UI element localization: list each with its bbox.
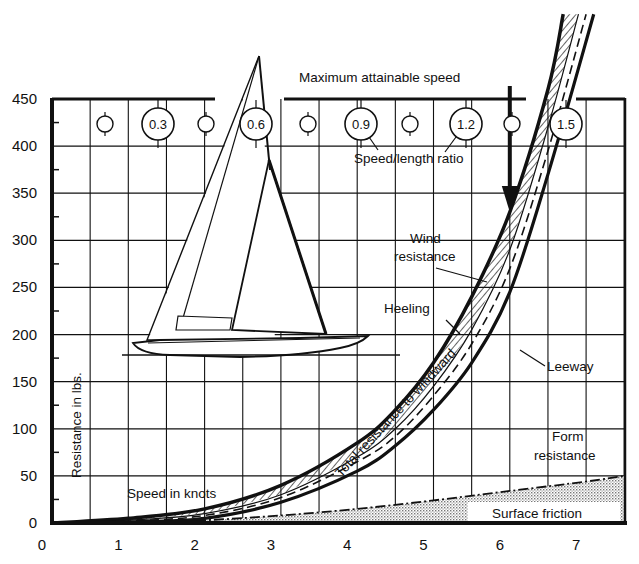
sailboat-illustration <box>122 56 400 357</box>
y-tick-label: 400 <box>12 137 37 154</box>
hull <box>133 336 368 357</box>
y-tick-label: 450 <box>12 90 37 107</box>
x-tick-label: 4 <box>343 536 351 553</box>
form-resistance-line <box>52 14 594 523</box>
y-tick-label: 300 <box>12 231 37 248</box>
x-tick-label: 2 <box>190 536 198 553</box>
ratio-value: 0.6 <box>247 117 265 132</box>
friction-label: Surface friction <box>492 506 582 521</box>
heeling-label: Heeling <box>384 301 430 316</box>
annotation-leader <box>520 350 545 366</box>
ratio-value: 1.5 <box>557 117 575 132</box>
small-ratio-marker <box>504 116 520 132</box>
y-tick-label: 350 <box>12 184 37 201</box>
small-ratio-marker <box>402 116 418 132</box>
ratio-value: 1.2 <box>457 117 475 132</box>
form-label-2: resistance <box>534 448 596 463</box>
small-ratio-marker <box>198 116 214 132</box>
x-tick-label: 0 <box>38 536 46 553</box>
annotation-leader <box>436 268 487 282</box>
leeway-label: Leeway <box>547 359 594 374</box>
ratio-leader <box>369 137 378 150</box>
ratio-value: 0.9 <box>352 117 370 132</box>
form-label: Form <box>552 429 584 444</box>
x-tick-label: 1 <box>114 536 122 553</box>
y-tick-label: 150 <box>12 373 37 390</box>
ratio-caption: Speed/length ratio <box>354 151 464 166</box>
y-axis-label: Resistance in lbs. <box>69 372 84 478</box>
small-ratio-marker <box>300 116 316 132</box>
x-tick-label: 5 <box>419 536 427 553</box>
ratio-value: 0.3 <box>149 117 167 132</box>
x-tick-label: 6 <box>496 536 504 553</box>
x-tick-label: 7 <box>572 536 580 553</box>
wind-label: Wind <box>410 231 441 246</box>
y-tick-label: 250 <box>12 278 37 295</box>
resistance-chart: 05010015020025030035040045001234567 0.30… <box>0 0 639 564</box>
wind-heeling-band <box>52 14 578 523</box>
ratio-leader <box>445 137 456 152</box>
x-tick-label: 3 <box>267 536 275 553</box>
resistance-curves <box>52 14 624 523</box>
y-tick-label: 100 <box>12 420 37 437</box>
x-axis-label: Speed in knots <box>127 486 217 501</box>
chart-title: Maximum attainable speed <box>299 70 460 85</box>
y-tick-label: 50 <box>20 467 37 484</box>
small-ratio-marker <box>97 116 113 132</box>
cabin <box>176 316 232 330</box>
wind-label-2: resistance <box>394 249 456 264</box>
y-tick-label: 200 <box>12 326 37 343</box>
y-tick-label: 0 <box>29 514 37 531</box>
